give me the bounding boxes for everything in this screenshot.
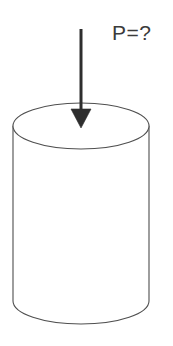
force-label: P=? — [112, 20, 151, 46]
figure-canvas: P=? — [0, 0, 173, 346]
cylinder-lateral-surface — [13, 126, 149, 324]
cylinder-load-diagram — [0, 0, 173, 346]
